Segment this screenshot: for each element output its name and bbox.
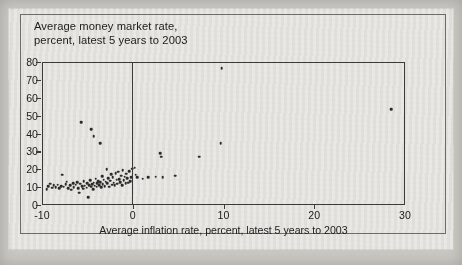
scatter-point: [58, 187, 61, 190]
scatter-point: [87, 196, 90, 199]
x-axis-tick-label: 20: [308, 209, 320, 221]
scatter-point: [85, 186, 88, 189]
y-axis-tick-label: 80: [4, 56, 38, 68]
scatter-point: [174, 174, 177, 177]
scatter-point: [220, 142, 223, 145]
scatter-point: [45, 188, 48, 191]
y-axis-tick-mark: [36, 205, 41, 206]
scatter-point: [105, 168, 108, 171]
scatter-point: [49, 182, 52, 185]
scatter-point: [133, 166, 136, 169]
y-axis-tick-label: 40: [4, 128, 38, 140]
y-axis-labels: 01020304050607080: [0, 0, 38, 265]
x-axis-tick-label: 0: [130, 209, 136, 221]
scatter-point: [99, 142, 102, 145]
y-axis-tick-mark: [36, 80, 41, 81]
chart-title: Average money market rate, percent, late…: [34, 20, 294, 47]
scatter-point: [74, 183, 77, 186]
y-axis-tick-label: 20: [4, 163, 38, 175]
scatter-point: [154, 175, 157, 178]
scatter-point: [54, 186, 57, 189]
scatter-point: [147, 176, 150, 179]
zero-reference-line: [132, 62, 133, 205]
scatter-point: [160, 156, 163, 159]
scatter-point: [128, 170, 131, 173]
scatter-point: [117, 170, 120, 173]
scatter-point: [73, 186, 76, 189]
y-axis-tick-mark: [36, 116, 41, 117]
plot-area: [42, 62, 405, 205]
scatter-point: [69, 184, 72, 187]
scatter-point: [83, 180, 86, 183]
scatter-point: [77, 187, 80, 190]
scatter-point: [93, 135, 96, 138]
scatter-point: [64, 183, 67, 186]
x-axis-title: Average inflation rate, percent, latest …: [42, 224, 405, 236]
x-axis-tick-mark: [314, 205, 315, 209]
scatter-point: [390, 108, 393, 111]
scatter-point: [61, 173, 64, 176]
scatter-point: [121, 184, 124, 187]
scatter-point: [63, 185, 66, 188]
chart-title-line-1: Average money market rate,: [34, 20, 294, 34]
scatter-point: [82, 188, 85, 191]
x-axis-tick-mark: [224, 205, 225, 209]
scatter-point: [101, 175, 104, 178]
scatter-point: [136, 176, 139, 179]
y-axis-tick-label: 70: [4, 74, 38, 86]
scatter-point: [220, 67, 223, 70]
y-axis-tick-mark: [36, 169, 41, 170]
scatter-point: [109, 179, 112, 182]
y-axis-tick-mark: [36, 62, 41, 63]
y-axis-tick-mark: [36, 151, 41, 152]
x-axis-tick-mark: [133, 205, 134, 209]
scatter-point: [122, 169, 125, 172]
y-axis-tick-mark: [36, 134, 41, 135]
y-axis-tick-label: 30: [4, 145, 38, 157]
scatter-point: [56, 183, 59, 186]
scatter-point: [142, 178, 145, 181]
scatter-point: [103, 185, 106, 188]
y-axis-tick-label: 10: [4, 181, 38, 193]
x-axis-tick-label: 30: [399, 209, 411, 221]
y-axis-tick-label: 60: [4, 92, 38, 104]
scatter-point: [70, 188, 73, 191]
scatter-point: [89, 179, 92, 182]
y-axis-tick-label: 50: [4, 110, 38, 122]
scatter-point: [100, 186, 103, 189]
chart-title-line-2: percent, latest 5 years to 2003: [34, 34, 294, 48]
y-axis-tick-mark: [36, 187, 41, 188]
x-axis-tick-label: -10: [34, 209, 49, 221]
y-axis-tick-label: 0: [4, 199, 38, 211]
scatter-point: [51, 186, 54, 189]
scatter-point: [125, 173, 128, 176]
y-axis-tick-mark: [36, 98, 41, 99]
scatter-point: [47, 185, 50, 188]
scatter-point: [92, 188, 95, 191]
scatter-point: [120, 174, 123, 177]
scanned-chart-page: Average money market rate, percent, late…: [0, 0, 462, 265]
scatter-point: [112, 176, 115, 179]
scatter-point: [80, 121, 83, 124]
scatter-point: [122, 179, 125, 182]
scatter-point: [159, 152, 162, 155]
scatter-point: [198, 156, 201, 159]
scatter-point: [161, 176, 164, 179]
scatter-point: [65, 181, 68, 184]
scatter-point: [78, 191, 81, 194]
x-axis-tick-label: 10: [218, 209, 230, 221]
scatter-point: [90, 128, 93, 131]
scatter-point: [106, 182, 109, 185]
